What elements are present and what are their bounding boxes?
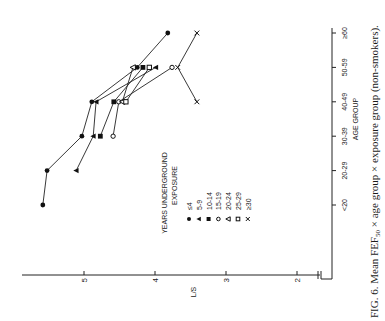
category-tick-label: 30-39 [341,127,348,145]
value-tick-label: 5 [80,277,89,282]
category-axis: <2020-2930-3940-4950-59≥60 AGE GROUP [321,27,359,279]
fef50-chart: 5432 L/S <2020-2930-3940-4950-59≥60 AGE … [0,0,385,321]
figure-caption: FIG. 6. Mean FEF50 × age group × exposur… [368,25,382,318]
legend-item: 25-29 [235,192,242,221]
series-≤4 [40,31,170,208]
legend-item-label: 25-29 [235,192,242,210]
legend-item-label: 5-9 [196,200,203,210]
value-tick-label: 3 [222,277,231,282]
category-tick-label: 50-59 [341,58,348,76]
value-axis: 5432 L/S [22,271,321,297]
value-axis-label: L/S [190,286,197,297]
legend: YEARS UNDERGROUND EXPOSURE ≤45-910-1415-… [161,152,252,234]
category-tick-label: 40-49 [341,93,348,111]
legend-item: 20-24 [225,192,232,221]
legend-item: ≥30 [245,198,252,221]
legend-item: 5-9 [196,200,203,221]
category-tick-label: 20-29 [341,162,348,180]
legend-item-label: 10-14 [206,192,213,210]
legend-title-line2: EXPOSURE [171,166,178,205]
legend-item: ≤4 [186,202,193,221]
series-≥30 [175,31,199,105]
category-tick-label: <20 [341,199,348,211]
legend-item-label: 20-24 [225,192,232,210]
value-tick-label: 4 [151,277,160,282]
legend-item: 15-19 [215,192,222,221]
legend-item-label: ≥30 [245,198,252,210]
category-axis-label: AGE GROUP [352,97,359,140]
legend-item: 10-14 [206,192,213,221]
legend-item-label: ≤4 [186,202,193,210]
category-tick-label: ≥60 [341,27,348,39]
value-tick-label: 2 [293,277,302,282]
legend-title-line1: YEARS UNDERGROUND [161,152,168,234]
legend-item-label: 15-19 [215,192,222,210]
